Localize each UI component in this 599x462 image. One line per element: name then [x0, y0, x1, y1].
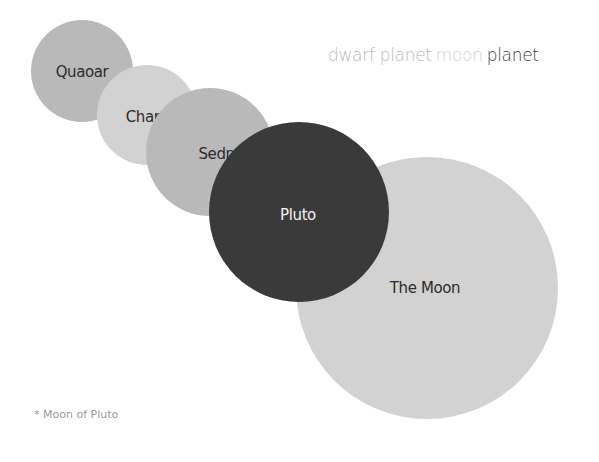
- bubbles-group: QuaoarCharon*SednaThe MoonPluto: [31, 20, 558, 419]
- bubble-chart: QuaoarCharon*SednaThe MoonPluto: [0, 0, 599, 462]
- bubble-pluto: Pluto: [209, 122, 389, 302]
- legend-planet: planet: [487, 45, 539, 65]
- legend: dwarf planetmoonplanet: [328, 45, 543, 65]
- legend-moon: moon: [436, 45, 483, 65]
- bubble-label: Quaoar: [56, 63, 110, 81]
- footnote: * Moon of Pluto: [34, 408, 118, 421]
- bubble-label: The Moon: [389, 279, 460, 297]
- legend-dwarf-planet: dwarf planet: [328, 45, 432, 65]
- bubble-label: Pluto: [280, 206, 316, 224]
